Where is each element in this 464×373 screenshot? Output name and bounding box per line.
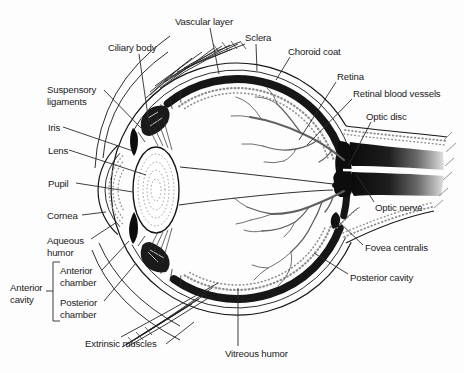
hyaloid-canal bbox=[179, 167, 333, 205]
label-text-posterior-chamber-line2: chamber bbox=[60, 309, 97, 320]
label-text-suspensory-line2: ligaments bbox=[47, 96, 87, 107]
label-text-pupil: Pupil bbox=[48, 178, 69, 189]
label-text-anterior-chamber-line1: Anterior bbox=[60, 265, 93, 276]
label-fovea-centralis: Fovea centralis bbox=[337, 220, 428, 253]
eye-anatomy-diagram: Vascular layer Ciliary body Sclera Choro… bbox=[0, 0, 464, 373]
lens-drawing bbox=[133, 147, 179, 233]
optic-nerve-drawing bbox=[331, 126, 456, 243]
label-text-lens: Lens bbox=[48, 145, 69, 156]
label-text-iris: Iris bbox=[48, 122, 61, 133]
label-text-fovea-centralis: Fovea centralis bbox=[365, 242, 428, 253]
label-posterior-cavity: Posterior cavity bbox=[314, 253, 414, 283]
label-text-anterior-cavity-line2: cavity bbox=[10, 294, 34, 305]
label-text-aqueous-line1: Aqueous bbox=[47, 235, 84, 246]
label-text-cornea: Cornea bbox=[47, 210, 78, 221]
label-suspensory-ligaments: Suspensory ligaments bbox=[47, 84, 141, 128]
label-text-extrinsic-muscles: Extrinsic muscles bbox=[85, 338, 157, 349]
eye-diagram-svg: Vascular layer Ciliary body Sclera Choro… bbox=[0, 0, 464, 373]
choroid-ring bbox=[168, 79, 347, 299]
label-text-posterior-cavity: Posterior cavity bbox=[350, 272, 414, 283]
label-text-sclera: Sclera bbox=[245, 32, 272, 43]
label-text-vascular-layer: Vascular layer bbox=[175, 16, 234, 27]
label-aqueous-humor: Aqueous humor bbox=[47, 222, 117, 258]
label-anterior-cavity: Anterior cavity bbox=[10, 262, 60, 321]
label-choroid-coat: Choroid coat bbox=[276, 46, 341, 80]
label-text-retina: Retina bbox=[337, 71, 365, 82]
label-pupil: Pupil bbox=[48, 178, 133, 192]
label-text-retinal-blood-vessels: Retinal blood vessels bbox=[353, 88, 441, 99]
label-text-choroid-coat: Choroid coat bbox=[288, 46, 341, 57]
label-text-anterior-chamber-line2: chamber bbox=[60, 277, 97, 288]
label-text-vitreous-humor: Vitreous humor bbox=[225, 348, 289, 359]
label-cornea: Cornea bbox=[47, 210, 106, 221]
label-text-suspensory-line1: Suspensory bbox=[47, 84, 97, 95]
label-text-ciliary-body: Ciliary body bbox=[108, 42, 157, 53]
label-text-posterior-chamber-line1: Posterior bbox=[60, 297, 98, 308]
label-text-anterior-cavity-line1: Anterior bbox=[10, 282, 43, 293]
label-text-optic-nerve: Optic nerve bbox=[375, 202, 422, 213]
label-text-aqueous-line2: humor bbox=[47, 247, 74, 258]
label-text-optic-disc: Optic disc bbox=[366, 111, 407, 122]
